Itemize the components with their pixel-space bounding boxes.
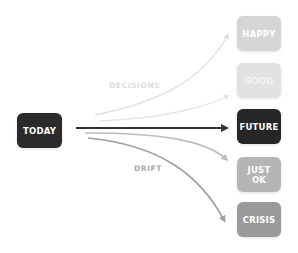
just-ok-label-line2: OK: [252, 175, 266, 185]
arrow-to-happy: [95, 35, 228, 115]
drift-label: DRIFT: [134, 164, 162, 173]
crisis-node: CRISIS: [237, 202, 281, 237]
decisions-label: DECISIONS: [109, 81, 160, 90]
today-label: TODAY: [23, 126, 56, 136]
arrow-to-crisis: [88, 138, 224, 220]
today-node: TODAY: [17, 113, 62, 148]
arrow-to-good: [100, 96, 228, 121]
happy-label: HAPPY: [242, 29, 275, 39]
good-node: GOOD: [237, 63, 281, 98]
happy-node: HAPPY: [237, 16, 281, 51]
good-label: GOOD: [244, 76, 273, 86]
just-ok-node: JUST OK: [237, 157, 281, 192]
just-ok-label-line1: JUST: [248, 165, 271, 175]
future-node: FUTURE: [237, 109, 281, 144]
future-label: FUTURE: [240, 122, 279, 132]
crisis-label: CRISIS: [243, 215, 276, 225]
